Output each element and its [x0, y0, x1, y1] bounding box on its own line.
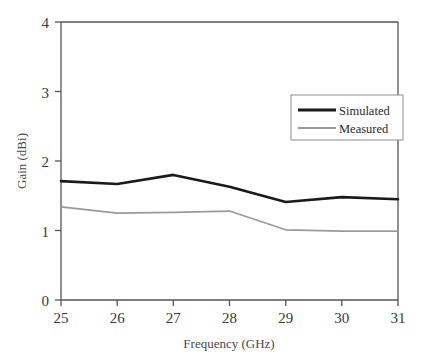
y-tick-label: 4: [42, 15, 50, 31]
x-tick-labels: 25 26 27 28 29 30 31: [54, 310, 406, 326]
x-tick-label: 31: [391, 310, 406, 326]
data-series-group: [61, 175, 398, 231]
y-tick-labels: 0 1 2 3 4: [42, 15, 50, 309]
x-axis-ticks: [61, 300, 398, 306]
x-tick-label: 30: [334, 310, 349, 326]
series-line-simulated: [61, 175, 398, 202]
chart-canvas: 0 1 2 3 4 25 26 27 28 29 30 31 Frequency…: [0, 0, 425, 363]
x-axis-title: Frequency (GHz): [183, 336, 274, 351]
plot-frame: [61, 22, 398, 300]
y-tick-label: 1: [42, 224, 50, 240]
x-tick-label: 28: [222, 310, 237, 326]
y-axis-ticks: [55, 22, 61, 300]
x-tick-label: 29: [278, 310, 293, 326]
x-tick-label: 25: [54, 310, 69, 326]
legend-label-simulated: Simulated: [339, 104, 390, 118]
y-tick-label: 0: [42, 293, 50, 309]
y-tick-label: 3: [42, 85, 50, 101]
y-tick-label: 2: [42, 154, 50, 170]
series-line-measured: [61, 207, 398, 231]
x-tick-label: 27: [166, 310, 182, 326]
legend: Simulated Measured: [291, 95, 403, 140]
legend-label-measured: Measured: [339, 122, 389, 136]
gain-vs-frequency-figure: 0 1 2 3 4 25 26 27 28 29 30 31 Frequency…: [0, 0, 425, 363]
y-axis-title: Gain (dBi): [14, 133, 29, 189]
x-tick-label: 26: [110, 310, 126, 326]
